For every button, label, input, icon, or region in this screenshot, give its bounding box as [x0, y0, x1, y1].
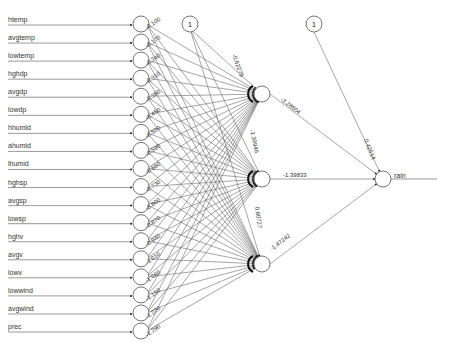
- edge-hidden-output: [270, 184, 376, 264]
- edge-hidden-output: [270, 94, 376, 174]
- arrowhead: [130, 223, 132, 225]
- edge-input-hidden: [147, 78, 256, 173]
- input-label-lowsp: lowsp: [8, 215, 26, 223]
- input-label-lowtemp: lowtemp: [8, 52, 34, 60]
- edge-input-hidden: [147, 269, 255, 332]
- arrowhead: [130, 60, 132, 62]
- input-label-hghv: hghv: [8, 233, 24, 241]
- network-edges: [8, 24, 437, 333]
- input-label-hhumid: hhumid: [8, 124, 31, 131]
- input-label-lowdp: lowdp: [8, 106, 26, 114]
- input-label-avgwind: avgwind: [8, 305, 34, 313]
- input-label-lowwind: lowwind: [8, 287, 33, 294]
- input-label-avgsp: avgsp: [8, 197, 27, 205]
- edge-input-hidden: [147, 184, 255, 259]
- arrowhead: [130, 168, 132, 170]
- edge-input-hidden: [147, 101, 257, 258]
- bias-output-weight: 0.42514: [363, 138, 377, 161]
- edge-input-hidden: [147, 186, 257, 331]
- edge-bias-hidden: [190, 29, 258, 171]
- edge-input-hidden: [147, 168, 255, 258]
- hidden-output-weight-2: -1.39833: [283, 172, 307, 178]
- input-label-lowv: lowv: [8, 269, 23, 276]
- arrowhead: [130, 277, 132, 279]
- input-label-hghdp: hghdp: [8, 70, 28, 78]
- arrowhead: [130, 132, 132, 134]
- input-label-prec: prec: [8, 323, 22, 331]
- edge-input-hidden: [147, 102, 258, 295]
- arrowhead: [130, 241, 132, 243]
- input-label-avgv: avgv: [8, 251, 23, 259]
- input-label-htemp: htemp: [8, 16, 28, 24]
- edge-input-hidden: [147, 101, 257, 241]
- hidden-output-weight-1: -3.28604: [279, 96, 302, 116]
- arrowhead: [130, 24, 132, 26]
- arrowhead: [130, 78, 132, 80]
- edge-input-hidden: [147, 24, 258, 256]
- edge-input-hidden: [147, 97, 254, 133]
- edge-input-hidden: [147, 60, 258, 256]
- input-label-lhumid: lhumid: [8, 160, 29, 167]
- input-label-hghsp: hghsp: [8, 179, 27, 187]
- input-label-avgtemp: avgtemp: [8, 34, 35, 42]
- arrowhead: [130, 42, 132, 44]
- hidden-node: [254, 86, 270, 102]
- neural-network-diagram: 11 htempavgtemplowtemphghdpavgdplowdphhu…: [0, 0, 455, 357]
- edge-input-hidden: [147, 102, 258, 313]
- arrowhead: [130, 150, 132, 152]
- hidden-output-weight-3: -1.47242: [269, 232, 292, 252]
- edge-input-hidden: [147, 102, 258, 277]
- edge-input-hidden: [147, 78, 253, 93]
- arrowhead: [130, 313, 132, 315]
- output-label-rain: rain: [394, 172, 406, 179]
- arrowhead: [130, 114, 132, 116]
- bias-hidden-weight: -0.62279: [231, 53, 245, 78]
- bias-node-label: 1: [312, 20, 317, 29]
- input-label-ahumid: ahumid: [8, 142, 31, 149]
- bias-node-label: 1: [188, 20, 193, 29]
- edge-bias-hidden: [190, 29, 255, 88]
- arrowhead: [130, 205, 132, 207]
- arrowhead: [130, 295, 132, 297]
- arrowhead: [130, 259, 132, 261]
- edge-input-hidden: [147, 114, 255, 174]
- input-label-avgdp: avgdp: [8, 88, 27, 96]
- edge-input-hidden: [147, 96, 254, 115]
- hidden-node: [254, 171, 270, 187]
- network-nodes: 11: [133, 16, 391, 339]
- hidden-node: [254, 256, 270, 272]
- edge-input-hidden: [147, 96, 257, 256]
- arrowhead: [130, 187, 132, 189]
- edge-input-hidden: [147, 268, 254, 313]
- hidden-weight-label: -1.39946: [249, 129, 260, 154]
- arrowhead: [130, 331, 132, 333]
- output-node: [375, 171, 391, 187]
- arrowhead: [130, 96, 132, 98]
- hidden-weight-label: 0.60727: [254, 206, 263, 229]
